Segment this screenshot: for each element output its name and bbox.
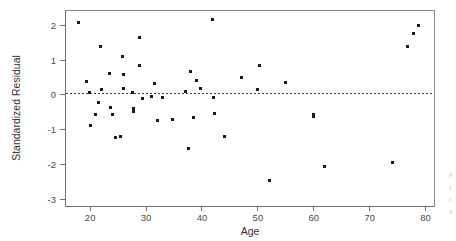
data-point	[114, 136, 117, 139]
data-point	[150, 95, 153, 98]
data-point	[109, 106, 112, 109]
data-point	[119, 135, 122, 138]
data-point	[284, 81, 287, 84]
y-tick-label-2: 2	[51, 20, 56, 31]
data-point	[94, 113, 97, 116]
data-point	[391, 161, 394, 164]
data-point	[138, 36, 141, 39]
data-point	[111, 113, 114, 116]
data-point	[85, 80, 88, 83]
page-edge-text-line: t	[449, 184, 451, 191]
data-point	[132, 110, 135, 113]
data-point	[131, 91, 134, 94]
data-point	[108, 72, 111, 75]
x-tick-label-50: 50	[253, 212, 264, 223]
data-point	[256, 88, 259, 91]
data-point	[417, 24, 420, 27]
data-point	[156, 119, 159, 122]
data-point	[77, 21, 80, 24]
data-point	[323, 165, 326, 168]
data-point	[88, 91, 91, 94]
data-point	[100, 88, 103, 91]
data-point	[406, 45, 409, 48]
data-point	[189, 70, 192, 73]
data-point	[240, 76, 243, 79]
data-point	[212, 96, 215, 99]
x-tick-label-40: 40	[197, 212, 208, 223]
data-point	[171, 118, 174, 121]
data-point	[161, 96, 164, 99]
data-point	[258, 64, 261, 67]
x-tick-label-60: 60	[309, 212, 320, 223]
data-point	[138, 64, 141, 67]
data-point	[132, 107, 135, 110]
data-point	[153, 82, 156, 85]
data-point	[213, 112, 216, 115]
x-tick-label-70: 70	[364, 212, 375, 223]
x-tick-label-80: 80	[420, 212, 431, 223]
data-point	[184, 90, 187, 93]
data-point	[121, 55, 124, 58]
data-point	[223, 135, 226, 138]
data-point	[122, 87, 125, 90]
data-point	[141, 97, 144, 100]
data-point	[312, 115, 315, 118]
y-tick-label-1: 1	[51, 55, 56, 66]
y-axis-title: Standardized Residual	[10, 55, 22, 161]
y-tick-label-0: 0	[51, 89, 56, 100]
y-tick-label--3: -3	[48, 194, 56, 205]
data-point	[97, 101, 100, 104]
plot-background	[0, 0, 456, 241]
page-edge-text-line: v	[449, 208, 453, 215]
data-point	[195, 79, 198, 82]
data-point	[89, 124, 92, 127]
data-point	[192, 116, 195, 119]
y-tick-label--2: -2	[48, 159, 56, 170]
data-point	[199, 87, 202, 90]
scatter-plot-figure: 20304050607080 210-1-2-3 Age Standardize…	[0, 0, 456, 241]
data-point	[122, 73, 125, 76]
data-point	[412, 32, 415, 35]
x-tick-label-30: 30	[141, 212, 152, 223]
x-tick-label-20: 20	[85, 212, 96, 223]
page-edge-text-line: F	[449, 172, 453, 179]
data-point	[268, 179, 271, 182]
data-point	[211, 18, 214, 21]
data-point	[99, 45, 102, 48]
x-axis-title: Age	[241, 225, 260, 237]
plot-canvas: 20304050607080 210-1-2-3 Age Standardize…	[0, 0, 456, 241]
data-point	[187, 147, 190, 150]
y-tick-label--1: -1	[48, 124, 56, 135]
